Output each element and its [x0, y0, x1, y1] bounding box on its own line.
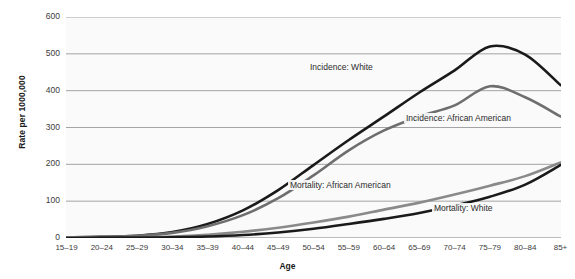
y-axis-title: Rate per 1000,000 [17, 52, 27, 172]
x-tick-label: 50–54 [302, 243, 324, 252]
series-line [67, 162, 561, 237]
y-tick-label: 200 [26, 159, 60, 168]
x-tick-label: 40–44 [232, 243, 254, 252]
y-tick-label: 600 [26, 12, 60, 21]
chart-container: Rate per 1000,000 0100200300400500600 15… [0, 0, 575, 279]
x-tick-label: 60–64 [373, 243, 395, 252]
series-label: Mortality: White [432, 203, 495, 213]
series-label: Incidence: African American [404, 113, 513, 123]
x-tick-label: 75–79 [479, 243, 501, 252]
y-tick-label: 500 [26, 49, 60, 58]
y-tick-label: 0 [26, 233, 60, 242]
y-tick-label: 400 [26, 86, 60, 95]
x-tick-label: 80–84 [514, 243, 536, 252]
x-tick-label: 15–19 [55, 243, 77, 252]
x-tick-label: 55–59 [338, 243, 360, 252]
x-tick-label: 35–39 [197, 243, 219, 252]
y-tick-label: 300 [26, 123, 60, 132]
x-axis-title: Age [0, 261, 575, 271]
x-tick-label: 25–29 [126, 243, 148, 252]
x-tick-label: 70–74 [444, 243, 466, 252]
x-tick-label: 45–49 [267, 243, 289, 252]
x-tick-label: 30–34 [161, 243, 183, 252]
x-tick-label: 85+ [554, 243, 568, 252]
series-line [67, 86, 561, 237]
series-label: Mortality: African American [288, 180, 393, 190]
x-tick-label: 65–69 [408, 243, 430, 252]
y-tick-label: 100 [26, 196, 60, 205]
series-label: Incidence: White [308, 62, 375, 72]
x-tick-label: 20–24 [91, 243, 113, 252]
